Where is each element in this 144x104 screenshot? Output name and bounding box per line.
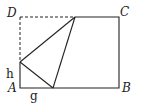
label-a: A [8,82,17,94]
label-g: g [30,90,38,102]
label-b: B [122,82,131,94]
label-h: h [6,68,14,80]
label-d: D [7,7,17,19]
rectangle-outline [20,17,119,88]
crease-line [53,17,75,88]
label-c: C [120,6,129,18]
flap-edge-upper [20,17,75,62]
flap-edge-lower [20,62,53,88]
